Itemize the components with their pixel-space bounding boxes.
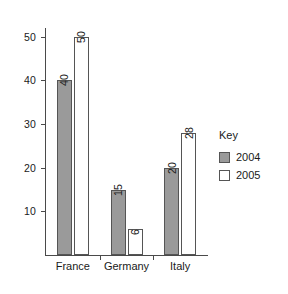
y-axis-tick-label: 30	[10, 119, 36, 129]
legend-label-2005: 2005	[236, 169, 260, 181]
y-axis-tick-mark	[41, 168, 45, 169]
legend: Key 20042005	[219, 129, 285, 187]
bar-italy-2005	[181, 133, 196, 255]
y-axis-tick-label: 10	[10, 206, 36, 216]
legend-entries: 20042005	[219, 151, 285, 181]
x-axis-line	[45, 255, 208, 256]
y-axis-tick-label: 50	[10, 32, 36, 42]
bar-value-label: 50	[76, 31, 86, 43]
y-axis-tick-label: 20	[10, 163, 36, 173]
legend-item-2005: 2005	[219, 169, 285, 181]
bar-germany-2004	[111, 190, 126, 255]
bar-value-label: 15	[113, 183, 123, 195]
y-axis-tick-label: 40	[10, 75, 36, 85]
bar-value-label: 6	[130, 229, 140, 235]
legend-item-2004: 2004	[219, 151, 285, 163]
legend-title: Key	[219, 129, 285, 142]
bar-france-2004	[57, 80, 72, 255]
y-axis-tick-mark	[41, 211, 45, 212]
y-axis-tick-mark	[41, 80, 45, 81]
bar-italy-2004	[164, 168, 179, 255]
bar-chart: 1020304050 40501562028 FranceGermanyItal…	[0, 0, 288, 294]
legend-swatch-2004	[219, 152, 230, 163]
bar-value-label: 20	[167, 162, 177, 174]
y-axis-tick-mark	[41, 37, 45, 38]
y-axis-tick-mark	[41, 124, 45, 125]
bar-france-2005	[74, 37, 89, 255]
legend-swatch-2005	[219, 170, 230, 181]
plot-area: 40501562028	[46, 28, 207, 255]
bar-value-label: 28	[184, 127, 194, 139]
legend-label-2004: 2004	[236, 151, 260, 163]
category-label-italy: Italy	[140, 260, 220, 273]
bar-value-label: 40	[59, 74, 69, 86]
